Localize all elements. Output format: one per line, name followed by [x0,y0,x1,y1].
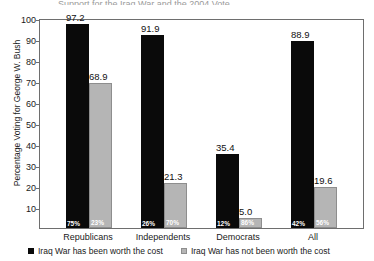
y-tick-label: 70 [26,78,36,88]
bar-value-label: 21.3 [164,172,183,182]
bar-value-label: 35.4 [216,143,235,153]
x-category-label: Republicans [63,232,113,242]
y-tick-label: 30 [26,162,36,172]
bar-share-label: 23% [91,219,104,226]
y-tick-label: 50 [26,120,36,130]
bar-share-label: 42% [292,220,305,227]
x-category-label: All [308,232,318,242]
bar-value-label: 68.9 [89,72,108,82]
bar[interactable]: 12% [216,154,239,228]
bar-group: 12%35.486%5.0 [216,20,262,228]
bar-share-label: 56% [316,219,329,226]
bar-group: 42%88.956%19.6 [291,20,337,228]
bar[interactable]: 26% [141,35,164,228]
bar-share-label: 86% [241,219,254,226]
legend-swatch-icon [28,248,34,254]
bar-share-label: 12% [217,220,230,227]
x-category-label: Independents [136,232,191,242]
y-tick-label: 80 [26,57,36,67]
bar-group: 75%97.223%68.9 [66,20,112,228]
legend-item[interactable]: Iraq War has not been worth the cost [181,246,330,256]
bar-group: 26%91.970%21.3 [141,20,187,228]
plot-area: 100908070605040302010 75%97.223%68.926%9… [39,19,364,229]
bar-share-label: 26% [142,220,155,227]
y-tick-label: 100 [21,15,36,25]
y-tick-label: 20 [26,183,36,193]
bar-value-label: 88.9 [291,30,310,40]
y-tick-label: 90 [26,36,36,46]
bar[interactable]: 42% [291,41,314,228]
bar[interactable]: 86% [239,218,262,229]
bar[interactable]: 70% [164,183,187,228]
legend-swatch-icon [181,248,187,254]
bars-layer: 75%97.223%68.926%91.970%21.312%35.486%5.… [40,20,363,228]
bar-value-label: 91.9 [141,24,160,34]
y-tick-label: 40 [26,141,36,151]
chart-legend: Iraq War has been worth the costIraq War… [28,246,330,256]
y-tick-label: 60 [26,99,36,109]
x-category-label: Democrats [216,232,260,242]
bar[interactable]: 75% [66,24,89,228]
legend-label: Iraq War has been worth the cost [38,246,163,256]
legend-item[interactable]: Iraq War has been worth the cost [28,246,163,256]
bar[interactable]: 56% [314,187,337,228]
bar-share-label: 70% [166,219,179,226]
bar-value-label: 19.6 [314,176,333,186]
bar-value-label: 5.0 [239,207,252,217]
bar-value-label: 97.2 [66,13,85,23]
y-axis-title: Percentage Voting for George W. Bush [12,13,22,213]
chart-title-cropped: Support for the Iraq War and the 2004 Vo… [58,0,308,5]
bar-share-label: 75% [67,220,80,227]
legend-label: Iraq War has not been worth the cost [191,246,330,256]
y-tick-label: 10 [26,204,36,214]
bar[interactable]: 23% [89,83,112,228]
